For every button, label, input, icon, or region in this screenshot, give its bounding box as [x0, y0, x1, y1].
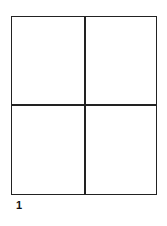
two-by-two-grid	[11, 16, 157, 195]
horizontal-divider	[12, 104, 156, 106]
figure-label: 1	[16, 199, 22, 211]
grid-cell-top-right	[85, 17, 155, 104]
grid-cell-bottom-left	[12, 106, 84, 193]
grid-cell-bottom-right	[85, 106, 155, 193]
grid-cell-top-left	[12, 17, 84, 104]
vertical-divider	[84, 17, 86, 194]
